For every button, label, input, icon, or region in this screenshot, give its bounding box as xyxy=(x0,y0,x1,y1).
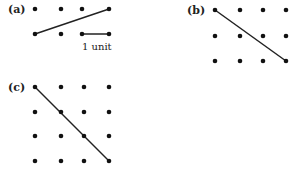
grid-dot xyxy=(284,34,289,39)
grid-dot xyxy=(59,7,64,12)
grid-dot xyxy=(82,134,87,139)
panel-label: (c) xyxy=(8,81,25,94)
grid-dot xyxy=(59,110,64,115)
grid-dot xyxy=(82,85,87,90)
grid-dot xyxy=(261,34,266,39)
grid-dot xyxy=(284,59,289,64)
panel-label: (b) xyxy=(187,4,205,17)
unit-annotation: 1 unit xyxy=(82,41,112,52)
grid-dot xyxy=(80,32,85,37)
grid-dot xyxy=(284,8,289,13)
grid-dot xyxy=(107,134,112,139)
grid-dot xyxy=(33,7,38,12)
grid-dot xyxy=(238,34,243,39)
grid-dot xyxy=(213,34,218,39)
grid-dot xyxy=(107,159,112,164)
panel-b: (b) xyxy=(187,4,288,63)
panel-a: (a)1 unit xyxy=(8,3,112,52)
grid-dot xyxy=(59,159,64,164)
grid-dot xyxy=(33,110,38,115)
grid-dot xyxy=(261,59,266,64)
grid-dot xyxy=(261,8,266,13)
grid-dot xyxy=(82,159,87,164)
grid-dot xyxy=(80,7,85,12)
grid-dot xyxy=(33,85,38,90)
grid-dot xyxy=(59,32,64,37)
dot-grid-diagram: (a)1 unit (b) (c) xyxy=(0,0,295,171)
grid-dot xyxy=(107,7,112,12)
grid-dot xyxy=(107,32,112,37)
grid-dot xyxy=(213,59,218,64)
grid-dot xyxy=(213,8,218,13)
grid-dot xyxy=(33,159,38,164)
panel-c: (c) xyxy=(8,81,111,163)
grid-dot xyxy=(59,134,64,139)
grid-dot xyxy=(59,85,64,90)
grid-dot xyxy=(238,59,243,64)
grid-dot xyxy=(238,8,243,13)
grid-dot xyxy=(33,32,38,37)
line-segment xyxy=(215,10,286,61)
panel-label: (a) xyxy=(8,3,26,16)
grid-dot xyxy=(33,134,38,139)
grid-dot xyxy=(107,85,112,90)
line-segment xyxy=(35,87,109,161)
grid-dot xyxy=(82,110,87,115)
grid-dot xyxy=(107,110,112,115)
line-segment xyxy=(35,9,109,34)
